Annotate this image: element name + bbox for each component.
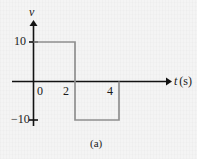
x-tick-label-2: 2	[63, 85, 69, 97]
y-axis-label: v	[29, 6, 34, 18]
figure-container: v t(s) 10 −10 0 2 4 (a)	[0, 0, 197, 159]
x-axis-label: t(s)	[174, 75, 192, 87]
x-axis-label-variable: t	[174, 74, 177, 88]
x-axis-arrowhead	[166, 78, 172, 86]
waveform-plot	[0, 0, 197, 159]
y-tick-label-minus-10: −10	[11, 113, 30, 125]
y-axis-arrowhead	[30, 20, 38, 26]
origin-label: 0	[37, 85, 43, 97]
x-tick-label-4: 4	[107, 85, 113, 97]
y-tick-label-10: 10	[14, 35, 26, 47]
x-axis-label-unit: (s)	[179, 74, 192, 88]
figure-caption: (a)	[90, 138, 102, 149]
